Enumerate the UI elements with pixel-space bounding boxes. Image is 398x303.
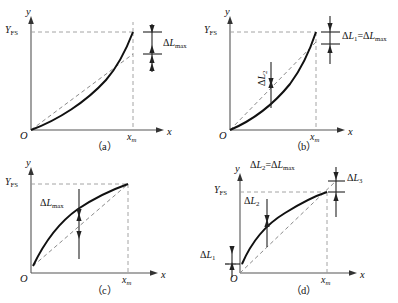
y-axis-label: y — [26, 7, 31, 18]
x-axis-label: x — [167, 127, 172, 138]
axes-d — [237, 173, 357, 276]
delta-L-3-label: ΔL3 — [347, 173, 362, 185]
guides-a — [31, 22, 133, 130]
panel-b-plot — [199, 0, 398, 152]
panel-c-plot — [0, 151, 199, 303]
delta-L-2-equals-delta-L-max-label: ΔL2=ΔLmax — [250, 160, 295, 172]
axes-c — [28, 167, 158, 276]
axes-b — [227, 16, 345, 133]
axes-a — [28, 16, 164, 133]
delta-L-max-label-c: ΔLmax — [40, 198, 64, 210]
calibration-curve-a — [31, 32, 133, 130]
delta-L-1-equals-delta-L-max-label: ΔL1=ΔLmax — [342, 31, 387, 43]
panel-d: y x O YFS xm ΔL2=ΔLmax ΔL3 ΔL2 ΔL1 （d） — [199, 151, 398, 303]
y-axis-label: y — [225, 7, 230, 18]
panel-d-plot — [199, 151, 398, 303]
y-axis-label: y — [26, 158, 31, 169]
figure-root: y x O YFS xm ΔLmax （a） — [0, 0, 398, 303]
calibration-curve-b — [230, 32, 316, 130]
panel-c-caption: （c） — [92, 282, 117, 297]
y-fs-tick-label: YFS — [5, 177, 18, 189]
delta-L-max-label-a: ΔLmax — [163, 38, 187, 50]
x-axis-label: x — [161, 270, 166, 281]
x-axis-label: x — [360, 270, 365, 281]
origin-label: O — [20, 131, 28, 142]
x-max-tick-label: xm — [321, 275, 330, 287]
origin-label: O — [219, 131, 227, 142]
y-fs-tick-label: YFS — [204, 25, 217, 37]
origin-label: O — [230, 274, 238, 285]
reference-line-b — [230, 42, 316, 130]
panel-a: y x O YFS xm ΔLmax （a） — [0, 0, 199, 152]
y-axis-label: y — [235, 164, 240, 175]
x-max-tick-label: xm — [127, 132, 136, 144]
delta-L-2-label-b: ΔL2 — [257, 71, 269, 86]
origin-label: O — [20, 274, 28, 285]
x-axis-label: x — [348, 127, 353, 138]
x-max-tick-label: xm — [122, 275, 131, 287]
delta-L-2-label-d: ΔL2 — [244, 196, 259, 208]
panel-b: y x O YFS xm ΔL1=ΔLmax ΔL2 （b） — [199, 0, 398, 152]
y-fs-tick-label: YFS — [5, 25, 18, 37]
y-fs-tick-label: YFS — [214, 185, 227, 197]
guides-b — [230, 32, 316, 130]
panel-c: y x O YFS xm ΔLmax （c） — [0, 151, 199, 303]
delta-L-1-label-d: ΔL1 — [200, 250, 215, 262]
panel-d-caption: （d） — [291, 282, 316, 297]
